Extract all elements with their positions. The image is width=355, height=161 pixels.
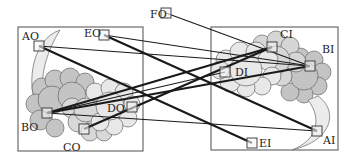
diagram-canvas: FOEOAOBOCODOCIBIDIAIEI xyxy=(0,0,355,161)
node-label: EI xyxy=(259,137,271,150)
node-EI: EI xyxy=(247,137,271,150)
node-label: AI xyxy=(322,134,335,147)
node-FO: FO xyxy=(150,8,171,21)
node-box xyxy=(247,138,257,148)
node-box xyxy=(127,102,137,112)
node-box xyxy=(42,108,52,118)
node-label: BO xyxy=(21,121,38,134)
node-DI: DI xyxy=(220,66,248,79)
node-label: CI xyxy=(280,28,293,41)
node-box xyxy=(220,67,230,77)
node-box xyxy=(267,42,277,52)
node-AO: AO xyxy=(21,30,44,51)
node-label: DO xyxy=(107,102,125,115)
node-EO: EO xyxy=(84,27,109,40)
node-label: EO xyxy=(84,27,101,40)
node-label: AO xyxy=(21,30,39,43)
node-label: FO xyxy=(150,8,167,21)
node-label: DI xyxy=(235,66,248,79)
node-label: CO xyxy=(63,141,80,154)
node-box xyxy=(305,61,315,71)
node-box xyxy=(312,126,322,136)
node-label: BI xyxy=(322,43,334,56)
node-box xyxy=(79,124,89,134)
